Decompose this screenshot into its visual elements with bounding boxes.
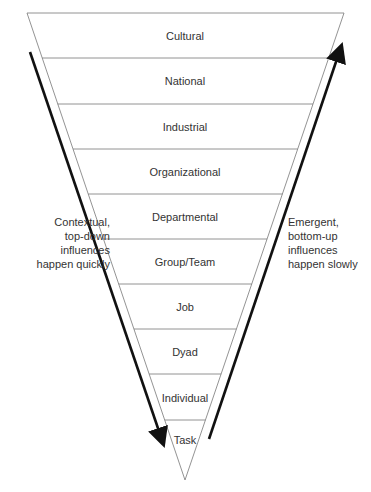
level-label-task: Task xyxy=(174,434,197,446)
level-label-departmental: Departmental xyxy=(152,211,218,223)
level-label-job: Job xyxy=(176,301,194,313)
annotation-line: happen slowly xyxy=(288,257,371,271)
annotation-line: Contextual, xyxy=(2,215,110,229)
annotation-line: top-down xyxy=(2,229,110,243)
level-label-organizational: Organizational xyxy=(150,166,221,178)
level-label-individual: Individual xyxy=(162,392,208,404)
annotation-line: Emergent, xyxy=(288,215,371,229)
top-down-annotation: Contextual, top-down influences happen q… xyxy=(2,215,110,271)
level-label-national: National xyxy=(165,75,205,87)
annotation-line: happen quickly xyxy=(2,257,110,271)
annotation-line: bottom-up xyxy=(288,229,371,243)
bottom-up-annotation: Emergent, bottom-up influences happen sl… xyxy=(288,215,371,271)
level-label-cultural: Cultural xyxy=(166,30,204,42)
level-label-industrial: Industrial xyxy=(163,121,208,133)
annotation-line: influences xyxy=(2,243,110,257)
level-label-group-team: Group/Team xyxy=(155,256,216,268)
annotation-line: influences xyxy=(288,243,371,257)
level-label-dyad: Dyad xyxy=(172,346,198,358)
